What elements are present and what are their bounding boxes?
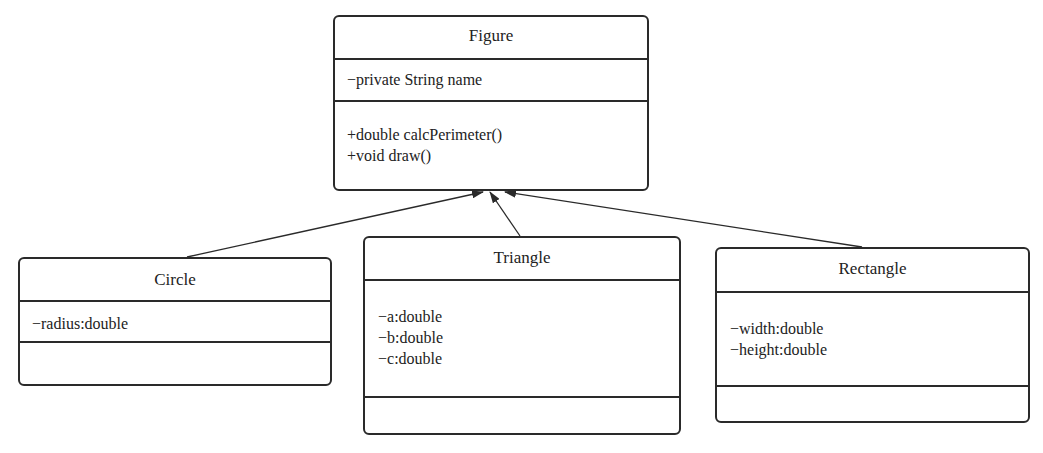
class-name: Triangle — [365, 248, 679, 268]
class-name: Rectangle — [717, 259, 1028, 279]
method: +double calcPerimeter() — [347, 124, 647, 145]
attribute: −width:double — [730, 318, 1028, 339]
class-name: Figure — [335, 26, 647, 46]
divider — [20, 341, 330, 343]
class-rectangle: Rectangle −width:double −height:double — [715, 247, 1030, 423]
divider — [717, 385, 1028, 387]
arrow-triangle-to-figure — [490, 192, 520, 236]
attributes-section: −radius:double — [32, 313, 330, 334]
attribute: −b:double — [378, 327, 679, 348]
divider — [20, 300, 330, 302]
divider — [717, 291, 1028, 293]
class-name: Circle — [20, 270, 330, 290]
methods-section: +double calcPerimeter() +void draw() — [347, 124, 647, 166]
divider — [335, 100, 647, 102]
class-triangle: Triangle −a:double −b:double −c:double — [363, 236, 681, 435]
attribute: −c:double — [378, 348, 679, 369]
attribute: −a:double — [378, 306, 679, 327]
attributes-section: −a:double −b:double −c:double — [378, 306, 679, 369]
attributes-section: −private String name — [347, 69, 647, 90]
divider — [365, 279, 679, 281]
attributes-section: −width:double −height:double — [730, 318, 1028, 360]
divider — [335, 58, 647, 60]
method: +void draw() — [347, 145, 647, 166]
class-figure: Figure −private String name +double calc… — [333, 15, 649, 191]
class-circle: Circle −radius:double — [18, 257, 332, 386]
attribute: −radius:double — [32, 313, 330, 334]
divider — [365, 396, 679, 398]
attribute: −private String name — [347, 69, 647, 90]
attribute: −height:double — [730, 339, 1028, 360]
